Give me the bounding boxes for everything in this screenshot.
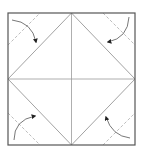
fold-arrows [12,17,130,140]
arrow-top-left-icon [12,20,36,42]
center-creases [8,13,135,145]
arrow-bottom-left-icon [14,116,35,140]
arrow-bottom-right-icon [106,117,130,138]
origami-diagram [0,0,143,152]
